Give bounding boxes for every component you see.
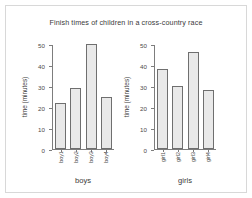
y-tick-boys: 50	[49, 45, 52, 46]
bar-slot: girl3	[188, 44, 199, 149]
y-tick-girls: 30	[151, 87, 154, 88]
category-label: girl1	[160, 152, 166, 162]
y-tick-label-boys: 0	[42, 147, 45, 154]
y-tick-girls: 50	[151, 45, 154, 46]
y-tick-boys: 40	[49, 66, 52, 67]
y-tick-label-girls: 40	[140, 63, 147, 70]
y-axis-title-girls: time (minutes)	[123, 77, 130, 117]
bar-group-girls: girl1 girl2 girl3 girl4	[155, 44, 216, 149]
bar-group-boys: boy1 boy2 boy3 boy4	[53, 44, 114, 149]
bar-slot: boy3	[86, 44, 97, 149]
y-tick-label-boys: 40	[38, 63, 45, 70]
x-axis-title-boys: boys	[52, 176, 114, 185]
category-label: boy1	[58, 151, 64, 163]
y-tick-girls: 40	[151, 66, 154, 67]
bar[interactable]	[101, 97, 112, 150]
panel-girls: time (minutes) 50 40 30 20 10 0	[128, 40, 224, 190]
bar[interactable]	[188, 52, 199, 149]
category-label: boy4	[103, 151, 109, 163]
bar[interactable]	[157, 69, 168, 149]
bar[interactable]	[70, 88, 81, 149]
category-label: girl3	[190, 152, 196, 162]
y-tick-label-girls: 50	[140, 42, 147, 49]
category-label: boy2	[73, 151, 79, 163]
y-tick-label-boys: 30	[38, 84, 45, 91]
bar-slot: boy4	[101, 44, 112, 149]
panel-boys: time (minutes) 50 40 30 20 10 0	[26, 40, 122, 190]
y-tick-boys: 10	[49, 129, 52, 130]
y-tick-girls: 10	[151, 129, 154, 130]
plot-area-boys: 50 40 30 20 10 0 boy1	[52, 45, 114, 150]
y-tick-label-girls: 10	[140, 126, 147, 133]
chart-figure: Finish times of children in a cross-coun…	[0, 0, 252, 198]
y-tick-label-boys: 10	[38, 126, 45, 133]
bar-slot: girl2	[172, 44, 183, 149]
y-tick-boys: 0	[49, 150, 52, 151]
y-tick-label-boys: 50	[38, 42, 45, 49]
category-label: girl4	[205, 152, 211, 162]
y-tick-label-girls: 30	[140, 84, 147, 91]
bar-slot: girl1	[157, 44, 168, 149]
bar-slot: girl4	[203, 44, 214, 149]
bar-slot: boy2	[70, 44, 81, 149]
x-axis-title-girls: girls	[154, 176, 216, 185]
category-label: girl2	[175, 152, 181, 162]
plot-area-girls: 50 40 30 20 10 0 girl1	[154, 45, 216, 150]
bar-slot: boy1	[55, 44, 66, 149]
y-tick-girls: 0	[151, 150, 154, 151]
bar[interactable]	[172, 86, 183, 149]
y-tick-label-girls: 20	[140, 105, 147, 112]
y-tick-boys: 30	[49, 87, 52, 88]
chart-title: Finish times of children in a cross-coun…	[0, 18, 252, 27]
y-tick-label-boys: 20	[38, 105, 45, 112]
y-tick-girls: 20	[151, 108, 154, 109]
y-tick-label-girls: 0	[144, 147, 147, 154]
bar[interactable]	[86, 44, 97, 149]
category-label: boy3	[88, 151, 94, 163]
y-axis-title-boys: time (minutes)	[21, 77, 28, 117]
y-tick-boys: 20	[49, 108, 52, 109]
bar[interactable]	[203, 90, 214, 149]
bar[interactable]	[55, 103, 66, 149]
